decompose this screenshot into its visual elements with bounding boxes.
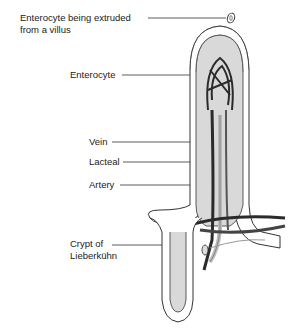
label-extruded-enterocyte: Enterocyte being extruded from a villus [20,12,131,36]
label-artery: Artery [89,179,114,191]
label-enterocyte: Enterocyte [70,69,115,81]
extruded-cell [226,12,236,24]
label-lacteal: Lacteal [89,156,120,168]
label-crypt: Crypt of Lieberkühn [70,238,117,262]
label-vein: Vein [89,136,108,148]
villus-illustration [0,0,289,332]
villus-diagram: Enterocyte being extruded from a villus … [0,0,289,332]
